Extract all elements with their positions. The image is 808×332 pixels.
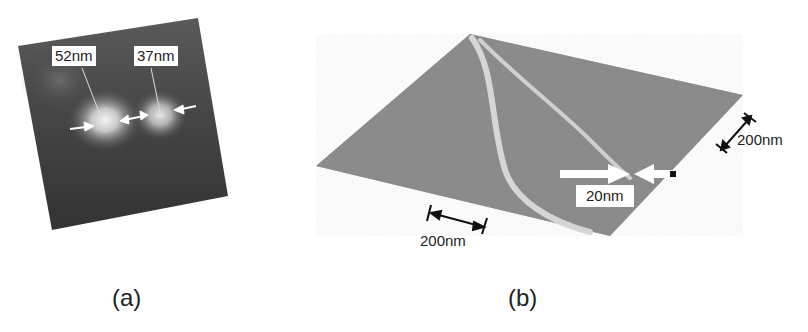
- panel-a-image: [0, 0, 300, 260]
- label-20nm: 20nm: [576, 185, 634, 207]
- label-37nm: 37nm: [134, 46, 178, 66]
- label-200nm-bottom: 200nm: [420, 232, 466, 250]
- panel-a: 52nm 37nm: [0, 0, 300, 260]
- caption-b: (b): [508, 284, 537, 312]
- label-52nm: 52nm: [52, 46, 96, 66]
- scale-bar-bottom: [427, 205, 487, 234]
- bright-spot-1: [67, 88, 143, 152]
- panel-b: 20nm 200nm 200nm: [300, 0, 808, 260]
- caption-a: (a): [112, 284, 141, 312]
- label-200nm-right: 200nm: [737, 131, 783, 149]
- panel-b-image: [300, 0, 808, 260]
